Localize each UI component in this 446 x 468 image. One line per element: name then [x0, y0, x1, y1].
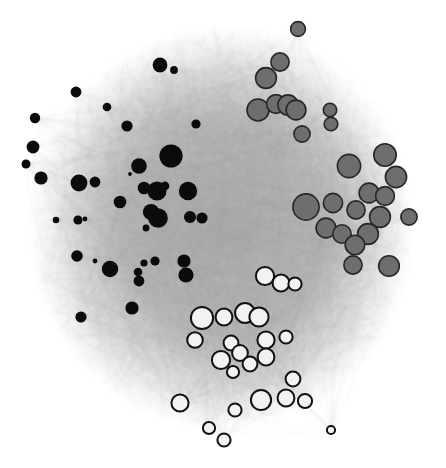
graph-node[interactable]: [159, 144, 182, 167]
graph-node[interactable]: [170, 66, 178, 74]
graph-node[interactable]: [291, 22, 306, 37]
graph-node[interactable]: [34, 171, 47, 184]
graph-node[interactable]: [71, 175, 88, 192]
graph-node[interactable]: [171, 394, 188, 411]
graph-node[interactable]: [178, 267, 193, 282]
graph-node[interactable]: [401, 209, 417, 225]
graph-node[interactable]: [191, 307, 213, 329]
graph-node[interactable]: [73, 215, 82, 224]
graph-node[interactable]: [227, 366, 239, 378]
graph-node[interactable]: [177, 254, 190, 267]
graph-node[interactable]: [114, 196, 127, 209]
graph-node[interactable]: [75, 311, 86, 322]
graph-node[interactable]: [187, 332, 203, 348]
graph-node[interactable]: [83, 217, 88, 222]
graph-node[interactable]: [148, 208, 168, 228]
graph-node[interactable]: [251, 390, 271, 410]
graph-node[interactable]: [286, 100, 306, 120]
graph-node[interactable]: [27, 141, 40, 154]
graph-node[interactable]: [203, 422, 215, 434]
graph-node[interactable]: [228, 403, 241, 416]
graph-node[interactable]: [30, 113, 40, 123]
graph-node[interactable]: [184, 211, 196, 223]
graph-node[interactable]: [102, 261, 118, 277]
graph-node[interactable]: [258, 349, 275, 366]
graph-node[interactable]: [345, 235, 365, 255]
graph-node[interactable]: [286, 372, 301, 387]
graph-node[interactable]: [324, 117, 338, 131]
graph-node[interactable]: [247, 99, 269, 121]
graph-node[interactable]: [347, 201, 365, 219]
graph-node[interactable]: [298, 394, 312, 408]
graph-node[interactable]: [150, 256, 159, 265]
graph-node[interactable]: [22, 160, 31, 169]
graph-node[interactable]: [249, 307, 268, 326]
graph-node[interactable]: [128, 172, 132, 176]
graph-node[interactable]: [196, 212, 207, 223]
graph-node[interactable]: [293, 194, 319, 220]
graph-node[interactable]: [257, 331, 274, 348]
graph-node[interactable]: [134, 276, 145, 287]
graph-node[interactable]: [337, 154, 360, 177]
graph-node[interactable]: [53, 217, 60, 224]
graph-node[interactable]: [125, 301, 138, 314]
graph-node[interactable]: [153, 58, 168, 73]
graph-node[interactable]: [376, 187, 395, 206]
graph-node[interactable]: [93, 259, 98, 264]
graph-node[interactable]: [179, 182, 197, 200]
graph-node[interactable]: [323, 103, 336, 116]
graph-node[interactable]: [216, 309, 233, 326]
graph-node[interactable]: [243, 357, 258, 372]
graph-node[interactable]: [134, 268, 143, 277]
graph-node[interactable]: [217, 433, 230, 446]
network-graph-figure: [0, 0, 446, 468]
graph-node[interactable]: [327, 426, 335, 434]
graph-node[interactable]: [385, 166, 406, 187]
graph-node[interactable]: [256, 68, 277, 89]
graph-node[interactable]: [271, 53, 289, 71]
graph-node[interactable]: [71, 87, 82, 98]
graph-node[interactable]: [191, 119, 200, 128]
graph-node[interactable]: [90, 177, 101, 188]
graph-node[interactable]: [131, 158, 147, 174]
graph-node[interactable]: [273, 275, 290, 292]
graph-node[interactable]: [212, 351, 230, 369]
graph-node[interactable]: [256, 267, 274, 285]
graph-node[interactable]: [288, 277, 301, 290]
graph-node[interactable]: [103, 103, 112, 112]
graph-node[interactable]: [294, 126, 310, 142]
graph-node[interactable]: [279, 330, 292, 343]
graph-node[interactable]: [140, 259, 147, 266]
graph-node[interactable]: [161, 182, 170, 191]
graph-node[interactable]: [143, 225, 150, 232]
graph-node[interactable]: [71, 250, 83, 262]
graph-node[interactable]: [374, 144, 396, 166]
graph-node[interactable]: [323, 193, 342, 212]
graph-node[interactable]: [121, 120, 132, 131]
graph-node[interactable]: [278, 390, 295, 407]
graph-node[interactable]: [379, 256, 400, 277]
graph-node[interactable]: [344, 256, 362, 274]
network-graph-canvas[interactable]: [0, 0, 446, 468]
